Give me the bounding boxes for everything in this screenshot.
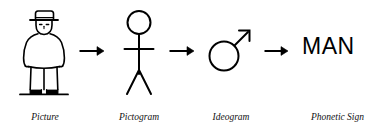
stage-phonetic-sign: MAN — [296, 0, 376, 104]
caption-phonetic-sign: Phonetic Sign — [295, 112, 380, 122]
stage-ideogram — [196, 0, 266, 104]
caption-pictogram: Pictogram — [99, 112, 179, 122]
stick-figure-icon — [104, 8, 174, 100]
arrow-right-icon — [79, 44, 105, 58]
caption-ideogram: Ideogram — [191, 112, 271, 122]
diagram-canvas: MAN Picture Pictogram Ideogram Phonetic … — [0, 0, 385, 138]
phonetic-word-text: MAN — [302, 33, 355, 60]
arrow-right-icon — [264, 44, 289, 58]
standing-man-with-hat-icon — [8, 4, 82, 100]
arrow-right-icon — [169, 44, 195, 58]
mars-symbol-icon — [196, 20, 266, 84]
caption-picture: Picture — [5, 112, 85, 122]
stage-picture — [8, 0, 82, 104]
stage-pictogram — [104, 0, 174, 104]
